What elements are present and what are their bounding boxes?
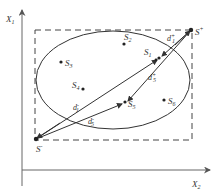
point-s6-label: S6 bbox=[168, 96, 176, 107]
point-s1b bbox=[155, 59, 158, 62]
distance-diagram: X1 X2 S+ S- S1 S2 S3 S4 S5 S6 d+1 d+5 d-… bbox=[0, 0, 220, 195]
point-s2-label: S2 bbox=[124, 32, 132, 43]
d5-minus-line bbox=[36, 104, 122, 139]
negative-ideal-label: S- bbox=[36, 143, 43, 154]
d5-plus-label: d+5 bbox=[148, 72, 156, 83]
d1-plus-return bbox=[175, 31, 190, 45]
feasible-region-ellipse bbox=[36, 31, 190, 129]
point-s6 bbox=[162, 98, 165, 101]
point-s1-label: S1 bbox=[144, 47, 152, 58]
negative-ideal-point bbox=[34, 137, 38, 141]
point-s2 bbox=[122, 42, 125, 45]
positive-ideal-label: S+ bbox=[195, 26, 204, 37]
point-s4 bbox=[81, 87, 84, 90]
positive-ideal-point bbox=[189, 28, 193, 32]
d5-minus-label: d-5 bbox=[88, 116, 94, 127]
horizontal-axis-label: X2 bbox=[191, 179, 201, 190]
point-s3-label: S3 bbox=[65, 58, 73, 69]
point-s4-label: S4 bbox=[72, 80, 80, 91]
point-s1 bbox=[157, 56, 160, 59]
point-s3 bbox=[59, 60, 62, 63]
vertical-axis-label: X1 bbox=[5, 14, 15, 25]
d1-minus-label: d-1 bbox=[73, 102, 79, 113]
d1-plus-label: d+1 bbox=[167, 33, 175, 44]
point-s5-label: S5 bbox=[128, 99, 136, 110]
point-s5 bbox=[123, 100, 126, 103]
